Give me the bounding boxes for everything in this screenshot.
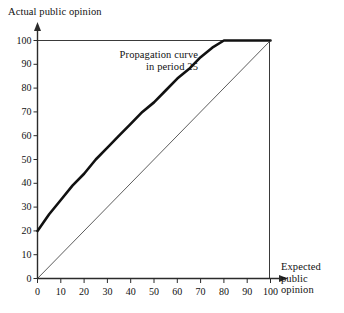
y-axis-title-line: Actual public opinion	[8, 6, 102, 18]
y-axis-arrowhead	[34, 22, 41, 31]
y-tick-label: 50	[22, 155, 32, 165]
reference-diagonal-line	[38, 41, 271, 279]
x-axis	[38, 275, 289, 282]
propagation-curve-label-line-1: Propagation curve	[74, 49, 198, 61]
x-tick-label: 80	[219, 287, 229, 297]
x-axis-title-line-1: Expected	[281, 261, 321, 273]
x-tick-label: 40	[126, 287, 136, 297]
x-axis-title-line-2: public	[281, 273, 321, 285]
propagation-curve-figure: Actual public opinion Expected public op…	[0, 0, 344, 313]
y-axis-title: Actual public opinion	[8, 6, 102, 18]
x-tick-label: 30	[102, 287, 112, 297]
y-tick-label: 0	[27, 274, 32, 284]
x-tick-label: 90	[242, 287, 252, 297]
plot-boundaries	[37, 41, 270, 279]
propagation-curve-label: Propagation curve in period 25	[74, 49, 198, 73]
y-tick-label: 40	[22, 178, 32, 188]
x-tick-label: 70	[196, 287, 206, 297]
x-tick-label: 10	[56, 287, 66, 297]
x-tick-label: 20	[79, 287, 89, 297]
y-tick-label: 90	[22, 59, 32, 69]
y-axis	[34, 22, 41, 279]
x-axis-title: Expected public opinion	[281, 261, 321, 296]
y-tick-label: 30	[22, 202, 32, 212]
y-tick-label: 80	[22, 83, 32, 93]
y-tick-label: 100	[17, 36, 32, 46]
propagation-curve-label-line-2: in period 25	[74, 61, 198, 73]
y-tick-label: 20	[22, 226, 32, 236]
y-tick-label: 10	[22, 250, 32, 260]
x-axis-title-line-3: opinion	[281, 284, 321, 296]
x-tick-label: 0	[35, 287, 40, 297]
y-tick-label: 60	[22, 131, 32, 141]
y-tick-label: 70	[22, 107, 32, 117]
x-tick-label: 50	[149, 287, 159, 297]
x-tick-label: 60	[172, 287, 182, 297]
x-tick-label: 100	[263, 287, 278, 297]
data-series-layer	[38, 41, 271, 279]
